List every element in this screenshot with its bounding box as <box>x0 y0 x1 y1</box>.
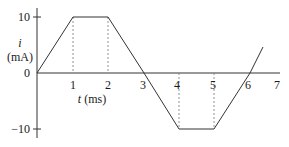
x-tick-label-2: 2 <box>105 78 111 92</box>
y-tick-label-10: 10 <box>18 10 30 24</box>
y-tick-label-0: 0 <box>24 66 30 80</box>
x-tick-label-7: 7 <box>274 78 280 92</box>
x-tick-label-4: 4 <box>174 78 180 92</box>
x-axis-title: t (ms) <box>78 92 106 106</box>
y-tick-label-neg10: −10 <box>11 122 30 136</box>
x-tick-label-6: 6 <box>245 78 251 92</box>
y-axis-unit: (mA) <box>7 50 33 64</box>
y-axis-symbol: i <box>18 36 21 50</box>
current-waveform-chart: 10 0 −10 i (mA) 1 2 3 4 5 6 7 t (ms) <box>0 0 289 147</box>
x-tick-label-3: 3 <box>140 78 146 92</box>
x-tick-label-5: 5 <box>210 78 216 92</box>
x-tick-label-1: 1 <box>70 78 76 92</box>
